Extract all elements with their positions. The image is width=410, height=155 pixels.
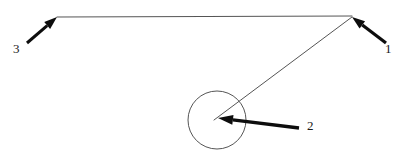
callout-arrow-1 — [352, 17, 386, 43]
line-drawing-svg — [0, 0, 410, 155]
callout-arrow-2 — [218, 115, 299, 128]
callout-label-3: 3 — [13, 42, 20, 55]
top-horizontal-line — [57, 16, 352, 17]
callout-label-1: 1 — [385, 42, 392, 55]
diagram-canvas: 1 2 3 — [0, 0, 410, 155]
callout-arrow-1-shaft — [362, 25, 386, 43]
callout-arrow-3-shaft — [27, 26, 47, 43]
diagonal-leader-line — [214, 17, 352, 120]
callout-arrow-2-shaft — [233, 120, 299, 128]
callout-label-2: 2 — [307, 119, 314, 132]
callout-arrow-2-head — [218, 115, 233, 125]
callout-arrow-3 — [27, 17, 57, 43]
